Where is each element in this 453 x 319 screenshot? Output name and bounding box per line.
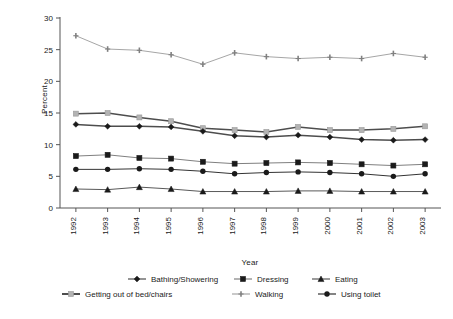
series-line bbox=[76, 155, 425, 166]
chart-figure: 0510152025301992199319941995199619971998… bbox=[0, 0, 453, 319]
series-line bbox=[76, 36, 425, 64]
data-point bbox=[168, 167, 173, 172]
data-point bbox=[327, 161, 332, 166]
series-line bbox=[76, 187, 425, 191]
legend-item: Bathing/Showering bbox=[128, 275, 218, 284]
data-point bbox=[327, 170, 332, 175]
x-tick-label: 2001 bbox=[355, 216, 364, 234]
data-point bbox=[327, 54, 332, 60]
y-tick-label: 5 bbox=[49, 172, 54, 181]
series-using-toilet bbox=[73, 166, 428, 179]
data-point bbox=[73, 167, 78, 172]
data-point bbox=[391, 174, 396, 179]
data-point bbox=[295, 132, 301, 138]
axes-group bbox=[60, 17, 441, 208]
series-line bbox=[76, 113, 425, 132]
data-point bbox=[264, 170, 269, 175]
x-tick-label: 2002 bbox=[386, 216, 395, 234]
legend-marker bbox=[134, 276, 140, 282]
data-point bbox=[169, 156, 174, 161]
data-point bbox=[296, 56, 301, 62]
series-eating bbox=[73, 184, 428, 194]
data-point bbox=[105, 167, 110, 172]
x-tick-label: 2003 bbox=[418, 216, 427, 234]
data-point bbox=[73, 122, 79, 128]
data-point bbox=[359, 137, 365, 143]
x-tick-label: 1996 bbox=[196, 216, 205, 234]
data-point bbox=[263, 134, 269, 140]
x-tick-label: 1995 bbox=[164, 216, 173, 234]
data-point bbox=[423, 124, 428, 129]
legend-marker bbox=[238, 291, 243, 297]
data-point bbox=[169, 52, 174, 58]
legend-label: Using toilet bbox=[341, 290, 381, 299]
y-tick-label: 25 bbox=[44, 46, 53, 55]
data-point bbox=[200, 159, 205, 164]
data-point bbox=[105, 152, 110, 157]
legend-item: Using toilet bbox=[318, 290, 381, 299]
data-point bbox=[359, 128, 364, 133]
x-tick-label: 1997 bbox=[228, 216, 237, 234]
data-point bbox=[137, 48, 142, 54]
x-tick-label: 1994 bbox=[132, 216, 141, 234]
legend-label: Getting out of bed/chairs bbox=[85, 290, 172, 299]
data-point bbox=[264, 161, 269, 166]
data-point bbox=[137, 155, 142, 160]
x-axis-title-text: Year bbox=[242, 258, 259, 267]
legend-label: Bathing/Showering bbox=[151, 275, 218, 284]
data-point bbox=[359, 171, 364, 176]
data-point bbox=[232, 133, 238, 139]
data-point bbox=[105, 123, 111, 129]
data-point bbox=[422, 137, 428, 143]
data-point bbox=[359, 162, 364, 167]
data-point bbox=[105, 46, 110, 52]
chart-legend: Bathing/ShoweringDressingEatingGetting o… bbox=[62, 275, 381, 299]
data-point bbox=[359, 56, 364, 62]
data-point bbox=[168, 124, 174, 130]
data-point bbox=[391, 163, 396, 168]
data-point bbox=[295, 169, 300, 174]
x-tick-label: 1993 bbox=[101, 216, 110, 234]
series-getting-out-of-bed-chairs bbox=[73, 111, 427, 135]
legend-marker bbox=[324, 291, 329, 296]
x-tick-group: 1992199319941995199619971998199920002001… bbox=[69, 208, 427, 235]
series-bathing-showering bbox=[73, 122, 428, 144]
series-line bbox=[76, 169, 425, 177]
y-tick-label: 30 bbox=[44, 14, 53, 23]
data-point bbox=[391, 126, 396, 131]
y-axis-title: Percent bbox=[40, 70, 49, 130]
data-point bbox=[73, 154, 78, 159]
data-point bbox=[136, 123, 142, 129]
legend-marker bbox=[241, 277, 246, 282]
legend-item: Getting out of bed/chairs bbox=[62, 290, 172, 299]
legend-item: Walking bbox=[232, 290, 283, 299]
x-axis-title: Year bbox=[195, 258, 305, 267]
line-chart-canvas: 0510152025301992199319941995199619971998… bbox=[0, 0, 453, 319]
data-point bbox=[423, 54, 428, 60]
x-tick-label: 1998 bbox=[259, 216, 268, 234]
data-point bbox=[232, 128, 237, 133]
data-point bbox=[423, 162, 428, 167]
legend-label: Eating bbox=[335, 275, 358, 284]
data-point bbox=[200, 169, 205, 174]
series-walking bbox=[73, 33, 427, 67]
x-tick-label: 1999 bbox=[291, 216, 300, 234]
data-point bbox=[264, 130, 269, 135]
y-axis-title-text: Percent bbox=[40, 85, 49, 114]
data-point bbox=[105, 111, 110, 116]
y-tick-label: 0 bbox=[49, 204, 54, 213]
x-tick-label: 2000 bbox=[323, 216, 332, 234]
data-point bbox=[232, 50, 237, 56]
data-point bbox=[327, 128, 332, 133]
data-point bbox=[200, 61, 205, 67]
data-point bbox=[137, 115, 142, 120]
legend-item: Eating bbox=[312, 275, 358, 284]
y-tick-label: 10 bbox=[44, 141, 53, 150]
legend-label: Dressing bbox=[257, 275, 289, 284]
series-line bbox=[76, 124, 425, 140]
data-point bbox=[73, 111, 78, 116]
legend-item: Dressing bbox=[234, 275, 289, 284]
data-point bbox=[264, 54, 269, 60]
data-point bbox=[327, 134, 333, 140]
data-point bbox=[169, 119, 174, 124]
